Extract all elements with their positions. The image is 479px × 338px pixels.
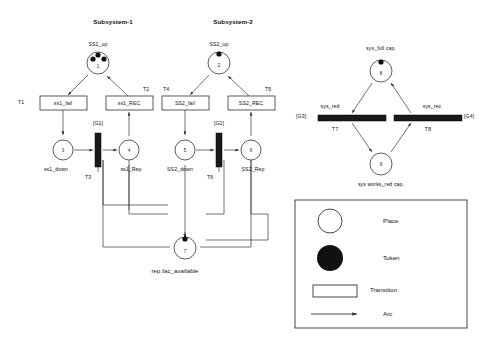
place-9-label: sys works_red cap. [358, 181, 404, 187]
place-4-id: 4 [128, 148, 131, 153]
transition-T8-label: sys_rec [423, 103, 442, 109]
transition-T3-name: T3 [85, 174, 91, 180]
diagram-canvas [0, 0, 479, 338]
transition-bar-group [95, 115, 462, 167]
transition-T4-name: T4 [163, 86, 169, 92]
guard-G1: [G1] [93, 120, 103, 126]
transition-T7 [318, 115, 386, 121]
arc-plain-group [103, 160, 268, 240]
transition-T5-name: T5 [265, 86, 271, 92]
place-7-id: 7 [184, 249, 187, 254]
petri-net-diagram: 1 2 3 4 5 6 7 8 9 Subsystem-1 Subsystem-… [0, 0, 479, 338]
place-1-label: SS1_up [88, 41, 107, 47]
place-6-id: 6 [250, 148, 253, 153]
place-2-id: 2 [218, 63, 221, 68]
bar-input-arcs [98, 161, 219, 238]
guard-G3: [G3] [296, 113, 306, 119]
repair-facility-arcs [103, 160, 251, 247]
place-3-id: 3 [62, 148, 65, 153]
legend-place-icon [318, 209, 342, 233]
transition-T2-label: ss1_REC [118, 100, 141, 106]
transition-T6 [216, 133, 222, 167]
legend-transition-label: Transition [370, 286, 397, 293]
transition-T8-name: T8 [425, 126, 431, 132]
place-6-label: SS2_Rep [242, 166, 265, 172]
place-5-label: SS2_down [167, 166, 193, 172]
place-8-label: sys_full cap. [366, 45, 396, 51]
transition-T4-label: SS2_fail [175, 100, 195, 106]
legend-token-label: Token [383, 254, 400, 261]
transition-T7-label: sys_red [321, 103, 340, 109]
place-2-label: SS2_up [209, 41, 228, 47]
legend-token-icon [317, 245, 343, 271]
place-8-id: 8 [380, 71, 383, 76]
subsystem-1-header: Subsystem-1 [93, 18, 133, 25]
legend-arc-label: Arc [383, 310, 392, 317]
guard-G4: [G4] [464, 113, 474, 119]
guard-G2: [G2] [214, 120, 224, 126]
place-5-id: 5 [184, 148, 187, 153]
transition-T8 [394, 115, 462, 121]
place-1-id: 1 [97, 64, 100, 69]
place-4-label: ss1_Rep [120, 166, 141, 172]
transition-T2-name: T2 [143, 86, 149, 92]
legend-place-label: Place [383, 217, 398, 224]
transition-T1-name: T1 [18, 99, 24, 105]
transition-T7-name: T7 [332, 126, 338, 132]
place-9-id: 9 [380, 162, 383, 167]
place-7-label: rep.fac_available [151, 268, 198, 274]
transition-T6-name: T6 [207, 174, 213, 180]
place-3-label: ss1_down [44, 166, 68, 172]
legend-transition-icon [313, 285, 357, 297]
transition-T3 [95, 133, 101, 167]
transition-T1-label: ss1_fail [54, 100, 72, 106]
transition-T5-label: SS2_REC [239, 100, 263, 106]
subsystem-2-header: Subsystem-2 [213, 18, 253, 25]
